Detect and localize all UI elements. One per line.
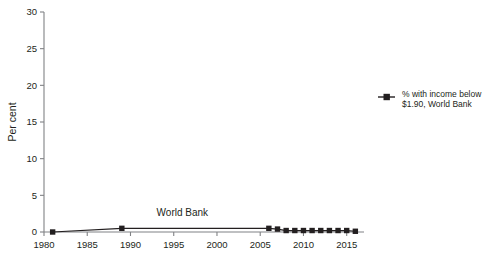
x-axis-tick-label: 1990 (120, 239, 141, 250)
data-point-marker (50, 229, 55, 234)
data-point-marker (266, 226, 271, 231)
data-point-marker (301, 228, 306, 233)
legend-item-label-line1: % with income below (402, 89, 482, 99)
data-point-marker (119, 226, 124, 231)
y-axis-tick-label: 20 (26, 80, 37, 91)
x-axis-tick-label: 1995 (163, 239, 184, 250)
x-axis-tick-label: 2015 (336, 239, 357, 250)
data-point-marker (318, 228, 323, 233)
series-annotation-label: World Bank (157, 207, 210, 218)
x-axis-tick-label: 2000 (206, 239, 227, 250)
chart-figure: 0510152025301980198519901995200020052010… (0, 0, 495, 268)
y-axis-tick-label: 15 (26, 116, 37, 127)
data-point-marker (335, 228, 340, 233)
y-axis-tick-label: 25 (26, 43, 37, 54)
data-point-marker (292, 228, 297, 233)
chart-canvas: 0510152025301980198519901995200020052010… (0, 0, 495, 268)
data-point-marker (327, 228, 332, 233)
y-axis-title: Per cent (6, 102, 18, 141)
y-axis-tick-label: 0 (32, 226, 37, 237)
data-point-marker (353, 229, 358, 234)
x-axis-tick-label: 1980 (33, 239, 54, 250)
data-point-marker (275, 226, 280, 231)
x-axis-tick-label: 2010 (293, 239, 314, 250)
legend-item-label-line2: $1.90, World Bank (402, 99, 473, 109)
data-point-marker (344, 228, 349, 233)
legend-swatch-marker (384, 94, 390, 100)
data-point-marker (283, 228, 288, 233)
x-axis-tick-label: 1985 (77, 239, 98, 250)
y-axis-tick-label: 30 (26, 6, 37, 17)
data-point-marker (309, 228, 314, 233)
y-axis-tick-label: 10 (26, 153, 37, 164)
y-axis-tick-label: 5 (32, 190, 37, 201)
x-axis-tick-label: 2005 (250, 239, 271, 250)
